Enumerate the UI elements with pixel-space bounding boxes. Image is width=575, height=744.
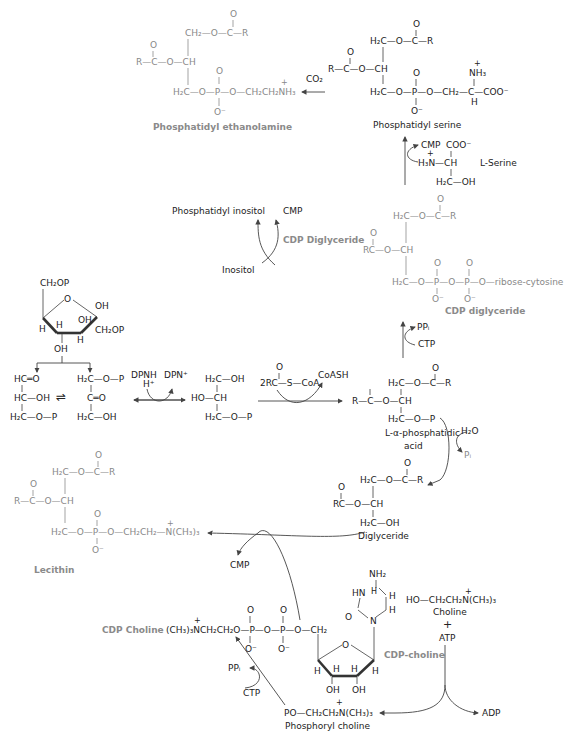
atom-label: O: [342, 640, 349, 650]
atom-label: (CH₃)₃NCH₂CH₂O—P—O—P—O—CH₂: [166, 625, 328, 635]
atom-label: H: [314, 666, 321, 676]
byproduct-label: CMP: [230, 560, 250, 570]
reactant-label: CTP: [243, 688, 261, 698]
atom-label: H: [77, 335, 84, 345]
atom-label: H: [471, 97, 478, 107]
phosphatidic-acid: O H₂C—O—C—R O R—C—O—CH H₂C—O—P L-α-phosp…: [352, 363, 478, 485]
atom-label: H₂C—O—C—R: [388, 378, 451, 388]
diglyceride: O H₂C—O—C—R O RC—O—CH H₂C—OH Diglyceride: [333, 458, 423, 541]
atom-label: NH₃: [469, 68, 487, 78]
reactant-label: ATP: [439, 633, 456, 643]
byproduct-label: CMP: [283, 206, 303, 216]
compound-name: CDP diglyceride: [445, 306, 525, 316]
compound-name: Lecithin: [34, 565, 74, 575]
atom-label: OH: [95, 301, 109, 311]
atom-label: NH₂: [369, 569, 387, 579]
fructose-diphosphate: CH₂OP O OH OH CH₂OP H H H OH: [37, 278, 125, 372]
atom-label: O⁻: [214, 107, 226, 117]
atom-label: O: [247, 605, 254, 615]
atom-label: O: [230, 9, 237, 19]
charge-label: +: [427, 149, 434, 158]
atom-label: O: [370, 228, 377, 238]
atom-label: H₂C—O—P—O—P—O—ribose-cytosine: [392, 277, 564, 287]
charge-label: +: [281, 78, 288, 87]
atom-label: HC—OH: [14, 393, 50, 403]
atom-label: H₂C—O—C—R: [360, 475, 423, 485]
atom-label: H₂C—OH: [436, 177, 476, 187]
atom-label: CH₂OP: [95, 325, 125, 335]
atom-label: HN: [352, 588, 366, 598]
atom-label: O: [276, 362, 283, 372]
cofactor-label: DPN⁺: [164, 370, 188, 380]
equilibrium-arrow: ⇌: [56, 390, 66, 404]
byproduct-label: PPᵢ: [417, 322, 430, 332]
atom-label: H: [389, 591, 396, 601]
atom-label: R—C—O—CH: [352, 396, 412, 406]
atom-label: H₂C—O—P: [10, 412, 58, 422]
atom-label: H₂C—O—P—O—CH₂CH₂NH₃: [173, 87, 296, 97]
atom-label: O: [64, 294, 71, 304]
atom-label: O: [345, 612, 352, 622]
atom-label: COO⁻: [446, 140, 471, 150]
compound-name: Phosphatidyl ethanolamine: [153, 122, 292, 132]
atom-label: H₂C—O—C—R: [370, 36, 433, 46]
atom-label: H: [39, 324, 46, 334]
atom-label: H₂C—OH: [205, 374, 245, 384]
atom-label: O⁻: [432, 294, 444, 304]
compound-name: L-α-phosphatidic: [385, 428, 460, 438]
atom-label: H₂C—O—C—R: [393, 211, 456, 221]
atom-label: O⁻: [278, 644, 290, 654]
atom-label: H₂C—O—P—O—CH₂CH₂—N(CH₃)₃: [51, 527, 200, 537]
atom-label: O: [94, 509, 101, 519]
atom-label: H: [56, 320, 63, 330]
atom-label: R—C—O—CH: [136, 57, 196, 67]
atom-label: O: [338, 482, 345, 492]
atom-label: C═O: [87, 393, 106, 403]
atom-label: O: [404, 458, 411, 468]
atom-label: H₂C—O—P: [388, 414, 436, 424]
atom-label: O: [432, 363, 439, 373]
atom-label: O: [30, 479, 37, 489]
reactant-label: L-Serine: [480, 158, 517, 168]
lipid-biosynthesis-diagram: O CH₂—O—C—R O R—C—O—CH O H₂C—O—P—O—CH₂CH…: [0, 0, 575, 744]
atom-label: O⁻: [464, 294, 476, 304]
atom-label: H₂C—OH: [77, 412, 117, 422]
plus-sign: +: [443, 618, 452, 631]
atom-label: HO—CH₂CH₂N(CH₃)₃: [406, 595, 497, 605]
product-label: Phosphatidyl inositol: [172, 206, 265, 216]
atom-label: HO—CH: [191, 393, 227, 403]
atom-label: O⁻: [92, 545, 104, 555]
atom-label: O: [280, 605, 287, 615]
compound-name: CDP-choline: [384, 650, 445, 660]
atom-label: CH₂—O—C—R: [185, 28, 248, 38]
atom-label: O⁻: [411, 106, 423, 116]
atom-label: O: [466, 258, 473, 268]
compound-name: Phosphatidyl serine: [373, 120, 462, 130]
compound-name: Diglyceride: [358, 531, 409, 541]
atom-label: H: [372, 666, 379, 676]
atom-label: OH: [352, 685, 366, 695]
reagent-label: CDP Diglyceride: [283, 235, 364, 245]
lecithin: O H₂C—O—C—R O R—C—O—CH O + H₂C—O—P—O—CH₂…: [14, 450, 365, 620]
atom-label: H₂C—O—C—R: [52, 467, 115, 477]
atom-label: O: [216, 66, 223, 76]
reactant-label: 2RC—S—CoA: [260, 378, 320, 388]
cdp-choline: CDP Choline + (CH₃)₃NCH₂CH₂O—P—O—P—O—CH₂…: [102, 569, 445, 705]
reactant-label: Inositol: [222, 265, 255, 275]
serine-addition-step: CMP COO⁻ + H₃N—CH H₂C—OH L-Serine: [405, 137, 517, 187]
inositol-step: Phosphatidyl inositol CMP Inositol CDP D…: [172, 206, 364, 275]
atom-label: H: [351, 664, 358, 674]
atom-label: OH: [54, 344, 68, 354]
charge-label: +: [194, 616, 201, 625]
charge-label: +: [474, 59, 481, 68]
atom-label: H₂C—O—P: [77, 374, 125, 384]
atom-label: H: [333, 664, 340, 674]
atom-label: R—C—O—CH: [328, 64, 388, 74]
acylation-step: O 2RC—S—CoA CoASH: [258, 362, 348, 403]
byproduct-label: CO₂: [306, 74, 323, 84]
atom-label: O: [413, 68, 420, 78]
atom-label: H₂C—O—P—O—CH₂—C—COO⁻: [370, 87, 509, 97]
atom-label: O: [150, 40, 157, 50]
byproduct-label: ADP: [482, 708, 501, 718]
byproduct-label: PPᵢ: [228, 663, 241, 673]
